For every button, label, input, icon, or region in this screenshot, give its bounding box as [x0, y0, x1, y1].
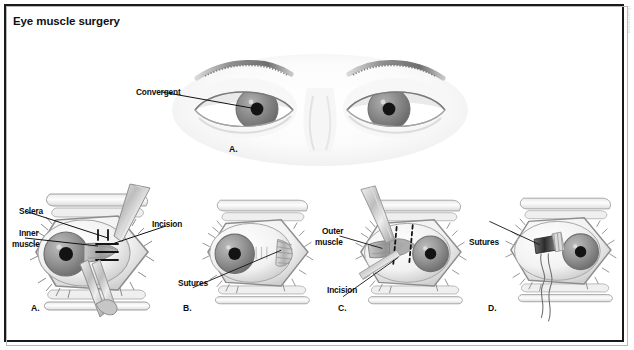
label-sutures-panel-b: Sutures	[178, 278, 208, 289]
panel-c-illustration	[352, 186, 477, 318]
panel-c-letter: C.	[338, 303, 347, 313]
label-convergent: Convergent	[136, 87, 181, 98]
panel-d-illustration	[502, 186, 627, 330]
watermark-text: Illustration	[620, 6, 632, 126]
panel-d-letter: D.	[488, 303, 497, 313]
label-outer-muscle-line1: Outer	[322, 226, 343, 237]
panel-a-letter: A.	[31, 303, 40, 313]
panel-b-letter: B.	[183, 303, 192, 313]
panel-a-illustration	[26, 186, 166, 318]
label-incision-panel-a: Incision	[152, 219, 182, 230]
label-inner-muscle-line2: muscle	[12, 239, 40, 250]
label-sutures-panel-d: Sutures	[469, 237, 499, 248]
top-panel-letter: A.	[229, 144, 238, 154]
label-sclera: Sclera	[19, 206, 43, 217]
label-incision-panel-c: Incision	[327, 285, 357, 296]
top-panel-eyes-illustration	[175, 52, 465, 162]
panel-b-illustration	[199, 186, 324, 318]
label-outer-muscle-line2: muscle	[315, 237, 343, 248]
eye-muscle-surgery-figure: Eye muscle surgery Illustration	[0, 0, 634, 350]
label-inner-muscle-line1: Inner	[19, 228, 39, 239]
page-title: Eye muscle surgery	[13, 15, 120, 27]
